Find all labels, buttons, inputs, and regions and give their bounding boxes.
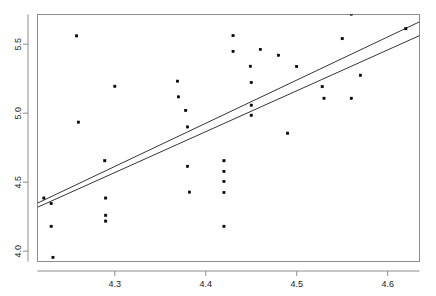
data-point	[323, 97, 325, 99]
y-tick-label-5.0: 5.0	[13, 107, 23, 120]
data-point	[359, 74, 361, 76]
data-point	[186, 126, 188, 128]
data-point	[223, 225, 225, 227]
scatter-plot-figure: 4.34.44.54.64.04.55.05.5	[0, 0, 436, 296]
data-point	[249, 65, 251, 67]
data-point	[250, 114, 252, 116]
data-point	[76, 35, 78, 37]
data-point	[250, 104, 252, 106]
plot-box-frame	[38, 15, 420, 262]
data-point	[277, 54, 279, 56]
data-point	[185, 109, 187, 111]
data-point	[223, 160, 225, 162]
y-tick-label-4.5: 4.5	[13, 176, 23, 189]
data-point	[223, 170, 225, 172]
y-tick-label-5.5: 5.5	[13, 38, 23, 51]
y-tick-label-4.0: 4.0	[13, 245, 23, 258]
data-point	[186, 165, 188, 167]
plot-canvas: 4.34.44.54.64.04.55.05.5	[0, 0, 436, 296]
data-point	[250, 81, 252, 83]
data-point	[232, 50, 234, 52]
data-point	[321, 86, 323, 88]
plot-box-border	[38, 15, 420, 262]
fit-lines-group	[38, 22, 420, 207]
data-point	[188, 191, 190, 193]
data-point	[50, 202, 52, 204]
data-point	[296, 65, 298, 67]
x-axis: 4.34.44.54.6	[38, 271, 420, 289]
data-point	[232, 35, 234, 37]
data-point	[105, 214, 107, 216]
data-point	[114, 85, 116, 87]
x-tick-label-4.6: 4.6	[381, 279, 394, 289]
y-axis: 4.04.55.05.5	[13, 15, 28, 262]
data-point	[259, 48, 261, 50]
x-tick-label-4.4: 4.4	[200, 279, 213, 289]
data-point	[105, 220, 107, 222]
data-point	[405, 28, 407, 30]
data-points-group	[43, 13, 407, 258]
x-tick-label-4.3: 4.3	[109, 279, 122, 289]
data-point	[176, 80, 178, 82]
data-point	[104, 160, 106, 162]
fit-line-lower	[38, 36, 420, 208]
data-point	[105, 197, 107, 199]
data-point	[52, 256, 54, 258]
data-point	[77, 121, 79, 123]
data-point	[350, 97, 352, 99]
data-point	[177, 96, 179, 98]
data-point	[50, 225, 52, 227]
data-point	[223, 191, 225, 193]
data-point	[341, 38, 343, 40]
data-point	[43, 197, 45, 199]
fit-line-upper	[38, 22, 420, 203]
data-point	[287, 132, 289, 134]
data-point	[223, 180, 225, 182]
x-tick-label-4.5: 4.5	[290, 279, 303, 289]
